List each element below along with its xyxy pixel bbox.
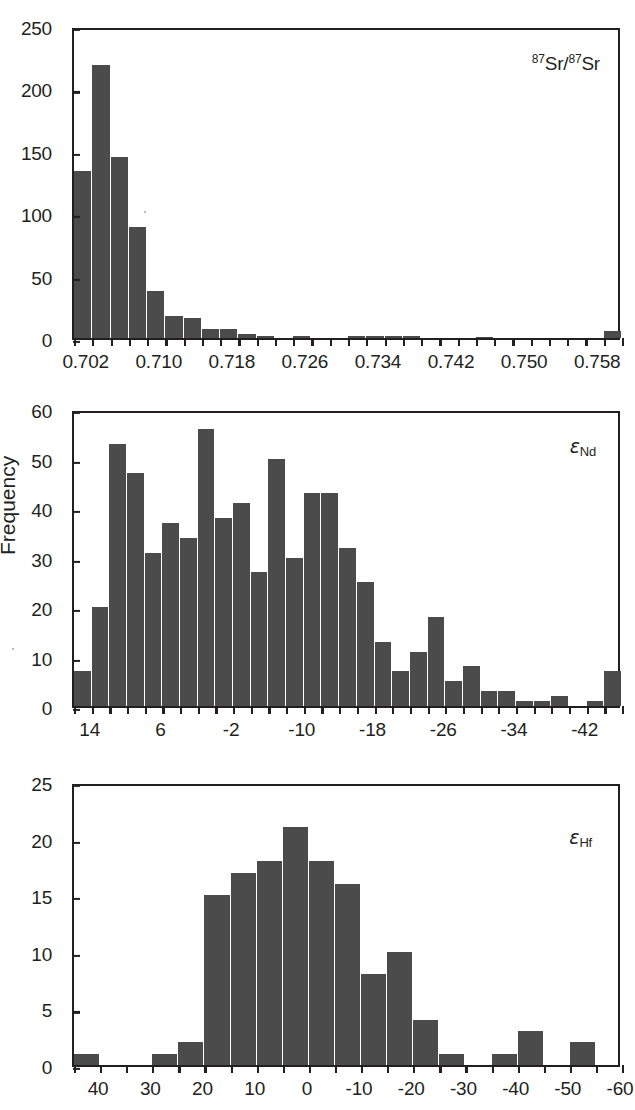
x-axis-tick bbox=[238, 338, 240, 346]
sr-superscript-2: 87 bbox=[568, 52, 581, 66]
x-axis-tick bbox=[465, 1065, 467, 1073]
x-axis-tick bbox=[385, 338, 387, 346]
x-axis-tick bbox=[392, 706, 394, 714]
x-axis-tick bbox=[74, 1065, 76, 1073]
histogram-bar bbox=[152, 1054, 178, 1065]
x-axis-tick bbox=[439, 1065, 441, 1073]
x-axis-tick bbox=[180, 706, 182, 714]
x-axis-tick-label: 20 bbox=[192, 1079, 213, 1098]
histogram-bar bbox=[410, 652, 428, 706]
x-axis-tick bbox=[492, 1065, 494, 1073]
histogram-bar bbox=[109, 444, 127, 706]
panel-sr-y-axis: 050100150200250 bbox=[0, 0, 58, 390]
nd-epsilon-symbol: ε bbox=[570, 435, 580, 457]
x-axis-tick bbox=[348, 338, 350, 346]
x-axis-tick bbox=[178, 1065, 180, 1073]
y-axis-tick-label: 10 bbox=[31, 944, 52, 963]
x-axis-tick-label: -60 bbox=[607, 1079, 634, 1098]
x-axis-tick bbox=[421, 338, 423, 346]
x-axis-tick-label: 0.702 bbox=[62, 352, 109, 371]
y-axis-tick-label: 15 bbox=[31, 888, 52, 907]
histogram-bar bbox=[476, 337, 494, 339]
y-axis-tick bbox=[73, 785, 80, 787]
sr-text-1: Sr/ bbox=[545, 53, 569, 74]
y-axis-tick bbox=[73, 659, 80, 661]
x-axis-tick bbox=[165, 338, 167, 346]
histogram-bar bbox=[534, 701, 552, 706]
x-axis-tick-label: -42 bbox=[571, 720, 598, 739]
histogram-bar bbox=[286, 558, 304, 707]
panel-hf-histogram: 0510152025 εHf 403020100-10-20-30-40-50-… bbox=[0, 762, 635, 1110]
y-axis-tick bbox=[73, 842, 80, 844]
x-axis-tick bbox=[311, 338, 313, 346]
x-axis-tick bbox=[257, 1065, 259, 1073]
panel-nd-bars bbox=[74, 413, 618, 706]
x-axis-tick bbox=[357, 706, 359, 714]
x-axis-tick bbox=[129, 338, 131, 346]
x-axis-tick bbox=[321, 706, 323, 714]
x-axis-tick-label: -10 bbox=[288, 720, 315, 739]
panel-hf-bars bbox=[74, 786, 618, 1065]
y-axis-tick bbox=[73, 412, 80, 414]
x-axis-tick-label: 0.718 bbox=[209, 352, 256, 371]
histogram-bar bbox=[204, 895, 230, 1065]
x-axis-tick-label: -40 bbox=[502, 1079, 529, 1098]
x-axis-tick bbox=[428, 706, 430, 714]
x-axis-tick-label: -50 bbox=[554, 1079, 581, 1098]
histogram-bar bbox=[518, 1031, 544, 1065]
x-axis-tick bbox=[494, 338, 496, 346]
figure-root: Frequency 050100150200250 87Sr/87Sr 0.70… bbox=[0, 0, 635, 1110]
y-axis-tick-label: 60 bbox=[31, 402, 52, 421]
histogram-bar bbox=[165, 316, 183, 338]
histogram-bar bbox=[147, 291, 165, 338]
x-axis-tick bbox=[202, 338, 204, 346]
x-axis-tick bbox=[330, 338, 332, 346]
histogram-bar bbox=[403, 336, 421, 338]
x-axis-tick bbox=[551, 706, 553, 714]
panel-sr-label: 87Sr/87Sr bbox=[532, 52, 600, 75]
nd-subscript: Nd bbox=[580, 444, 596, 459]
x-axis-tick bbox=[257, 338, 259, 346]
y-axis-tick-label: 30 bbox=[31, 550, 52, 569]
histogram-bar bbox=[357, 582, 375, 706]
x-axis-tick bbox=[152, 1065, 154, 1073]
x-axis-tick-label: -2 bbox=[223, 720, 240, 739]
y-axis-tick bbox=[73, 279, 80, 281]
x-axis-tick bbox=[198, 706, 200, 714]
x-axis-tick-label: 0.742 bbox=[428, 352, 475, 371]
x-axis-tick bbox=[387, 1065, 389, 1073]
x-axis-tick bbox=[268, 706, 270, 714]
x-axis-tick bbox=[596, 1065, 598, 1073]
histogram-bar bbox=[145, 553, 163, 706]
x-axis-tick bbox=[335, 1065, 337, 1073]
x-axis-tick-label: 6 bbox=[155, 720, 165, 739]
panel-nd-y-axis: 0102030405060 bbox=[0, 395, 58, 760]
panel-sr-plot-area: 87Sr/87Sr bbox=[72, 28, 620, 340]
histogram-bar bbox=[111, 157, 129, 338]
histogram-bar bbox=[92, 65, 110, 338]
histogram-bar bbox=[257, 861, 283, 1065]
histogram-bar bbox=[492, 1054, 518, 1065]
x-axis-tick bbox=[463, 706, 465, 714]
histogram-bar bbox=[74, 671, 92, 706]
histogram-bar bbox=[215, 518, 233, 706]
x-axis-tick-label: -26 bbox=[430, 720, 457, 739]
histogram-bar bbox=[361, 974, 387, 1065]
x-axis-tick bbox=[74, 338, 76, 346]
y-axis-tick bbox=[73, 955, 80, 957]
x-axis-tick-label: 0.734 bbox=[355, 352, 402, 371]
histogram-bar bbox=[335, 884, 361, 1065]
y-axis-tick-label: 150 bbox=[21, 143, 52, 162]
y-axis-tick bbox=[73, 1011, 80, 1013]
x-axis-tick bbox=[147, 338, 149, 346]
x-axis-tick bbox=[220, 338, 222, 346]
x-axis-tick-label: -30 bbox=[450, 1079, 477, 1098]
x-axis-tick bbox=[413, 1065, 415, 1073]
y-axis-tick-label: 0 bbox=[42, 1058, 52, 1077]
y-axis-tick bbox=[73, 29, 80, 31]
histogram-bar bbox=[392, 671, 410, 706]
histogram-bar bbox=[551, 696, 569, 706]
panel-sr-x-axis: 0.7020.7100.7180.7260.7340.7420.7500.758 bbox=[72, 352, 620, 382]
x-axis-tick bbox=[403, 338, 405, 346]
x-axis-tick bbox=[339, 706, 341, 714]
